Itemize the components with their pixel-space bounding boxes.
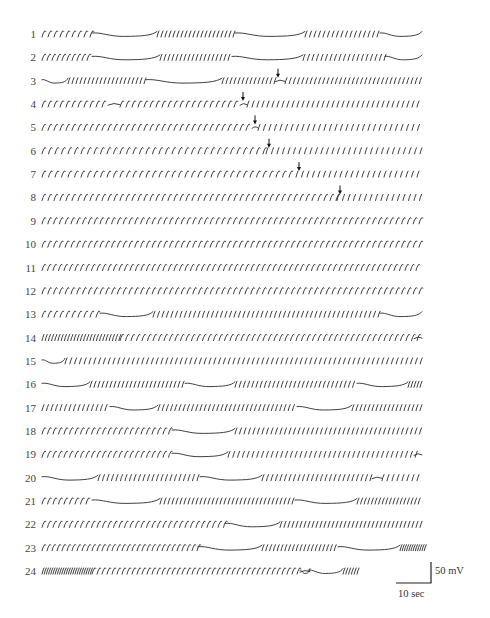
voltage-scale-label: 50 mV <box>435 565 464 577</box>
scale-bar <box>0 0 490 618</box>
time-scale-label: 10 sec <box>398 588 425 600</box>
trace-figure: 123456789101112131415161718192021222324 … <box>0 0 490 618</box>
